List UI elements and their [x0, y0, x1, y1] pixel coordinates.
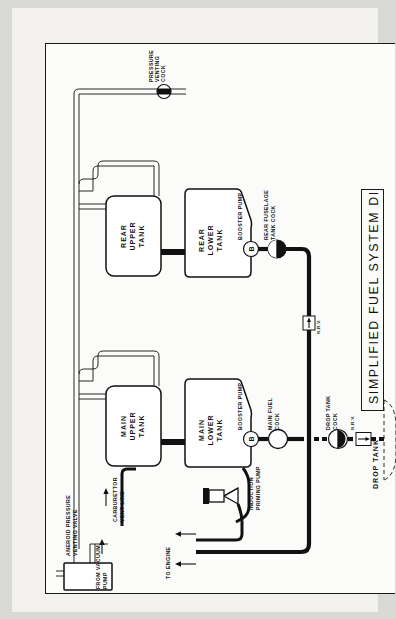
nrv-rear-label: N.R.V.: [316, 319, 321, 334]
diagram-frame: PRESSURE VENTING COCK ANEROID PRESSURE V…: [45, 43, 395, 594]
main-tank-interconnect: [161, 439, 185, 445]
main-fuel-cock-label-1: MAIN FUEL: [267, 397, 273, 430]
aneroid-valve-label-2: VENTING VALVE: [72, 509, 78, 556]
to-engine-arrows: [175, 531, 196, 567]
drop-tank-cock[interactable]: [314, 430, 348, 449]
title-box: SIMPLIFIED FUEL SYSTEM DIAGRAM: [361, 189, 384, 411]
main-fuel-line-rear: [286, 249, 309, 354]
aneroid-valve-label-1: ANEROID PRESSURE: [65, 495, 71, 556]
rear-tank-interconnect: [161, 249, 185, 255]
vent-pipework: [74, 89, 186, 564]
main-fuel-cock[interactable]: [258, 430, 304, 449]
to-engine-label: TO ENGINE: [165, 546, 171, 579]
rear-booster-pump[interactable]: B: [244, 242, 259, 257]
main-booster-pump[interactable]: B: [244, 432, 259, 447]
pressure-venting-cock-label-3: COCK: [160, 65, 166, 82]
induction-priming-pump[interactable]: [196, 468, 249, 540]
nrv-rear-line: [303, 316, 315, 330]
rear-lower-tank-label-3: TANK: [216, 229, 223, 252]
main-booster-pump-label: BOOSTER PUMP: [237, 382, 243, 430]
fuel-system-schematic: PRESSURE VENTING COCK ANEROID PRESSURE V…: [46, 44, 396, 595]
main-upper-tank-label-2: UPPER: [129, 411, 136, 440]
rear-upper-tank-label-2: UPPER: [129, 221, 136, 250]
main-lower-tank-label-2: LOWER: [207, 414, 214, 445]
nrv-drop-tank-label: N.R.V.: [350, 415, 355, 430]
drop-tank: [384, 400, 396, 480]
carburettor-vent-line-label-2: VENT LINE: [119, 491, 125, 522]
rear-fuselage-cock-label-1: REAR FUSELAGE: [263, 190, 269, 240]
rear-fuselage-cock-label-2: TANK COCK: [270, 205, 276, 240]
drop-tank-cock-label-2: COCK: [332, 413, 338, 430]
carburettor-vent-line-label-1: CARBURETTOR: [112, 477, 118, 522]
drop-tank-cock-label-1: DROP TANK: [325, 396, 331, 430]
from-vacuum-pump-label-1: FROM VACUUM: [95, 545, 101, 589]
pressure-venting-cock[interactable]: [157, 85, 171, 99]
rear-upper-tank-label-3: TANK: [138, 225, 145, 248]
main-upper-tank-label-1: MAIN: [120, 415, 127, 437]
drop-tank-label: DROP TANK: [372, 439, 379, 489]
induction-priming-pump-label-2: PRIMING PUMP: [255, 466, 261, 510]
rear-lower-tank-label-1: REAR: [198, 228, 205, 252]
main-lower-tank-label-1: MAIN: [198, 419, 205, 441]
rear-booster-pump-badge: B: [248, 246, 255, 251]
main-fuel-cock-label-2: COCK: [274, 413, 280, 430]
rear-booster-pump-label: BOOSTER PUMP: [237, 192, 243, 240]
nrv-drop-tank: [356, 433, 371, 446]
main-booster-pump-badge: B: [248, 436, 255, 441]
diagram-title: SIMPLIFIED FUEL SYSTEM DIAGRAM: [367, 190, 381, 404]
main-lower-tank-label-3: TANK: [216, 419, 223, 442]
rear-fuselage-tank-cock[interactable]: [258, 240, 286, 258]
induction-priming-pump-label-1: INDUCTION: [248, 477, 254, 510]
from-vacuum-pump-label-2: PUMP: [102, 572, 108, 589]
paper-sheet: PRESSURE VENTING COCK ANEROID PRESSURE V…: [12, 8, 378, 612]
rear-upper-tank-label-1: REAR: [120, 224, 127, 248]
rear-lower-tank-label-2: LOWER: [207, 224, 214, 255]
main-upper-tank-label-3: TANK: [138, 415, 145, 438]
